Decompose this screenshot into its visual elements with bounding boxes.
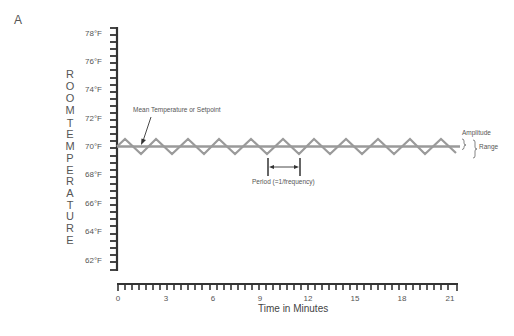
x-axis-title: Time in Minutes bbox=[258, 303, 328, 314]
x-tick-label: 15 bbox=[345, 294, 365, 303]
mean-annotation-label: Mean Temperature or Setpoint bbox=[133, 106, 221, 113]
period-annotation-label: Period (=1/frequency) bbox=[252, 178, 315, 185]
x-tick-label: 6 bbox=[203, 294, 223, 303]
x-tick-label: 12 bbox=[298, 294, 318, 303]
y-axis bbox=[110, 27, 117, 271]
amplitude-brace bbox=[462, 139, 466, 150]
x-tick-label: 21 bbox=[440, 294, 460, 303]
range-label: Range bbox=[479, 143, 498, 150]
chart-canvas bbox=[0, 0, 514, 336]
x-tick-label: 9 bbox=[250, 294, 270, 303]
x-tick-label: 18 bbox=[392, 294, 412, 303]
mean-annotation-arrow bbox=[141, 117, 151, 145]
x-tick-label: 0 bbox=[108, 294, 128, 303]
range-brace bbox=[473, 140, 477, 158]
x-axis bbox=[117, 284, 458, 291]
period-marker bbox=[268, 158, 300, 176]
x-tick-label: 3 bbox=[156, 294, 176, 303]
amplitude-label: Amplitude bbox=[462, 129, 491, 136]
